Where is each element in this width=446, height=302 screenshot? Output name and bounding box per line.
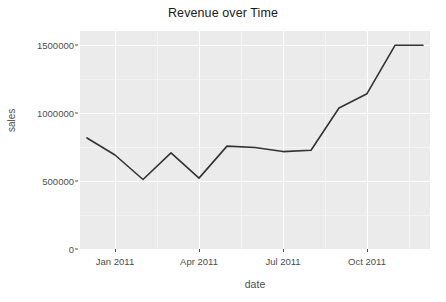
y-tick-label-3: 1500000: [37, 39, 74, 50]
data-series-line: [80, 31, 430, 249]
chart-title: Revenue over Time: [0, 6, 446, 20]
y-tick-mark-1: [75, 180, 78, 181]
x-tick-mark-1: [199, 249, 200, 252]
x-tick-label-1: Apr 2011: [180, 256, 218, 267]
chart-container: Revenue over Time sales 0500000100000015…: [0, 0, 446, 302]
y-tick-mark-2: [75, 112, 78, 113]
x-tick-label-3: Oct 2011: [348, 256, 386, 267]
x-tick-mark-0: [115, 249, 116, 252]
x-tick-mark-2: [283, 249, 284, 252]
y-tick-mark-3: [75, 44, 78, 45]
y-tick-mark-0: [75, 249, 78, 250]
series-sales-path: [87, 45, 423, 179]
y-axis-title: sales: [6, 109, 17, 132]
plot-panel: [80, 31, 430, 249]
x-tick-label-0: Jan 2011: [96, 256, 134, 267]
y-tick-label-1: 500000: [42, 175, 74, 186]
x-axis-title: date: [80, 278, 430, 290]
x-tick-label-2: Jul 2011: [265, 256, 300, 267]
y-tick-label-0: 0: [69, 244, 74, 255]
y-tick-label-2: 1000000: [37, 107, 74, 118]
x-tick-mark-3: [367, 249, 368, 252]
